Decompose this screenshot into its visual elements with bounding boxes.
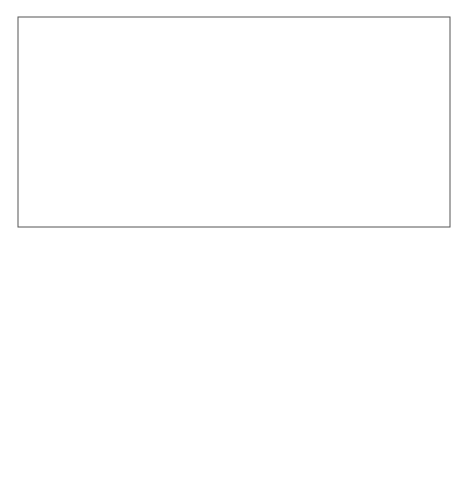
map-frame-top xyxy=(18,17,450,227)
itcz-shift-map xyxy=(0,0,469,488)
